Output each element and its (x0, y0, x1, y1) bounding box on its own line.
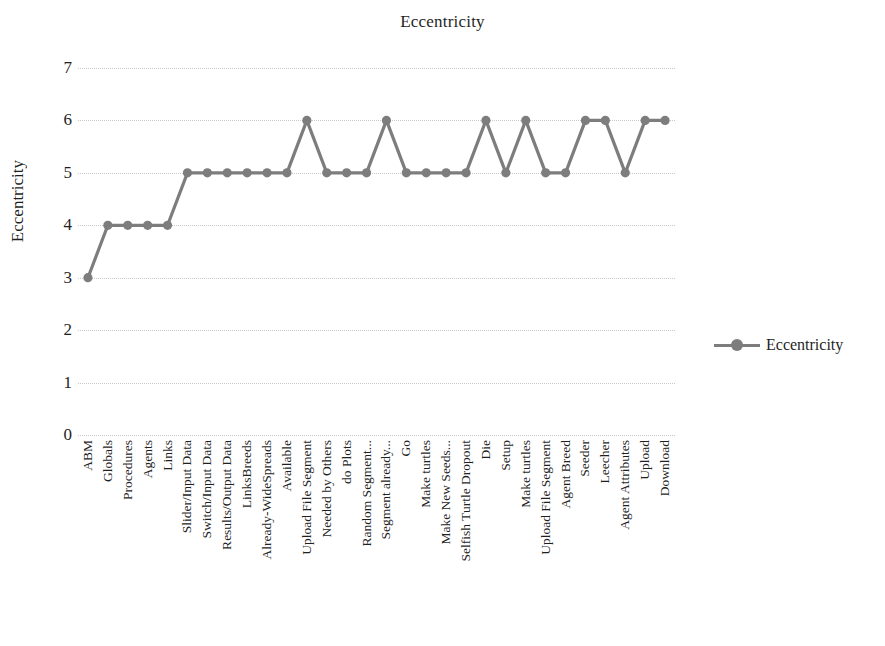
x-tick-label: Make turtles (419, 440, 433, 508)
data-point (621, 168, 630, 177)
x-tick-label: Segment already... (379, 440, 393, 540)
gridline-0 (78, 435, 675, 436)
x-tick-label: Upload File Segment (539, 440, 553, 555)
series-line (88, 120, 665, 277)
y-tick-2: 2 (38, 320, 72, 340)
x-tick-label: Selfish Turtle Dropout (459, 440, 473, 562)
x-tick-label: Random Segment... (360, 440, 374, 547)
plot-area (78, 68, 675, 435)
x-tick-label: Die (479, 440, 493, 460)
chart-container: Eccentricity Eccentricity 76543210 ABMGl… (0, 0, 885, 646)
y-tick-7: 7 (38, 58, 72, 78)
x-tick-label: Globals (101, 440, 115, 482)
data-point (302, 116, 311, 125)
data-point (143, 221, 152, 230)
y-tick-6: 6 (38, 110, 72, 130)
y-tick-0: 0 (38, 425, 72, 445)
data-point (123, 221, 132, 230)
x-tick-label: Needed by Others (320, 440, 334, 537)
chart-title: Eccentricity (0, 12, 885, 32)
data-point (262, 168, 271, 177)
data-point (660, 116, 669, 125)
x-tick-label: Make turtles (519, 440, 533, 508)
x-tick-label: Links (161, 440, 175, 471)
data-point (561, 168, 570, 177)
data-point (521, 116, 530, 125)
data-point (103, 221, 112, 230)
data-point (501, 168, 510, 177)
x-axis-tick-labels: ABMGlobalsProceduresAgentsLinksSlider/In… (78, 440, 675, 630)
x-tick-label: Available (280, 440, 294, 491)
legend: Eccentricity (714, 336, 843, 354)
x-tick-label: Results/Output Data (220, 440, 234, 550)
y-tick-1: 1 (38, 373, 72, 393)
x-tick-label: LinksBreeds (240, 440, 254, 508)
x-tick-label: Agents (141, 440, 155, 478)
data-point (163, 221, 172, 230)
x-tick-label: Go (399, 440, 413, 457)
data-point (183, 168, 192, 177)
data-point (461, 168, 470, 177)
y-tick-3: 3 (38, 268, 72, 288)
x-tick-label: Setup (499, 440, 513, 471)
x-tick-label: Upload (638, 440, 652, 480)
data-point (282, 168, 291, 177)
x-tick-label: Leecher (598, 440, 612, 483)
y-tick-4: 4 (38, 215, 72, 235)
y-tick-5: 5 (38, 163, 72, 183)
x-tick-label: Seeder (578, 440, 592, 477)
data-point (342, 168, 351, 177)
x-tick-label: Procedures (121, 440, 135, 500)
y-axis-tick-labels: 76543210 (36, 68, 72, 435)
data-point (322, 168, 331, 177)
data-point (243, 168, 252, 177)
x-tick-label: Slider/Input Data (180, 440, 194, 533)
x-tick-label: Make New Seeds... (439, 440, 453, 545)
data-point (402, 168, 411, 177)
x-tick-label: Already-WideSpreads (260, 440, 274, 559)
legend-label-eccentricity: Eccentricity (766, 336, 843, 354)
x-tick-label: Download (658, 440, 672, 496)
legend-marker-icon (714, 338, 760, 352)
data-point (382, 116, 391, 125)
data-point (601, 116, 610, 125)
data-point (422, 168, 431, 177)
data-point (442, 168, 451, 177)
data-point (83, 273, 92, 282)
data-point (641, 116, 650, 125)
series-eccentricity (78, 68, 675, 435)
x-tick-label: Switch/Input Data (200, 440, 214, 539)
data-point (203, 168, 212, 177)
y-axis-title: Eccentricity (8, 160, 32, 242)
data-point (581, 116, 590, 125)
x-tick-label: Upload File Segment (300, 440, 314, 555)
data-point (481, 116, 490, 125)
x-tick-label: Agent Attributes (618, 440, 632, 530)
data-point (541, 168, 550, 177)
data-point (362, 168, 371, 177)
data-point (223, 168, 232, 177)
x-tick-label: do Plots (340, 440, 354, 484)
x-tick-label: Agent Breed (559, 440, 573, 509)
x-tick-label: ABM (81, 440, 95, 471)
